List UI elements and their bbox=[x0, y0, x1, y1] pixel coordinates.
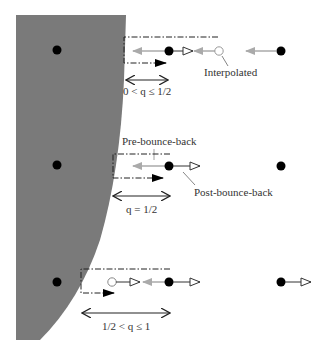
dash-dot-bracket bbox=[81, 269, 170, 293]
post-leader bbox=[183, 172, 195, 185]
fluid-node-2 bbox=[277, 278, 286, 287]
interpolated-label: Interpolated bbox=[204, 66, 258, 78]
fluid-node-1 bbox=[165, 162, 174, 171]
case3-label: 1/2 < q ≤ 1 bbox=[102, 320, 150, 332]
fluid-node-2 bbox=[277, 162, 286, 171]
pre-bounce-back-label: Pre-bounce-back bbox=[122, 135, 197, 147]
case2-label: q = 1/2 bbox=[126, 203, 157, 215]
case-q-greater-half: 1/2 < q ≤ 1 bbox=[81, 269, 311, 332]
case-q-equal-half: Pre-bounce-back Post-bounce-back q = 1/2 bbox=[113, 135, 286, 215]
case-q-less-half: Interpolated 0 < q ≤ 1/2 bbox=[123, 37, 286, 97]
wall-node-1 bbox=[53, 46, 62, 55]
post-bounce-back-label: Post-bounce-back bbox=[194, 186, 273, 198]
solid-wall bbox=[16, 15, 126, 340]
fluid-node-1 bbox=[165, 47, 174, 56]
interpolated-node bbox=[108, 278, 116, 286]
wall-node-3 bbox=[53, 278, 62, 287]
interpolated-leader bbox=[222, 56, 228, 66]
fluid-node-1 bbox=[165, 278, 174, 287]
fluid-node-2 bbox=[277, 47, 286, 56]
interpolated-node bbox=[215, 47, 223, 55]
diagram-canvas: Interpolated 0 < q ≤ 1/2 Pre-bounce-back… bbox=[0, 0, 326, 353]
wall-node-2 bbox=[53, 161, 62, 170]
case1-label: 0 < q ≤ 1/2 bbox=[123, 85, 171, 97]
